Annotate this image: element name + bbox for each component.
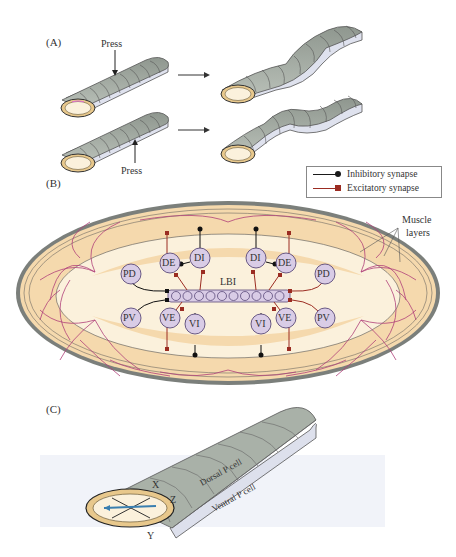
axis-x-label: X [152,479,159,490]
panel-c-pressure-cell-figure: Dorsal P cell Ventral P cell [0,0,456,557]
axis-y-label: Y [147,530,154,541]
axis-z-label: Z [170,494,176,505]
